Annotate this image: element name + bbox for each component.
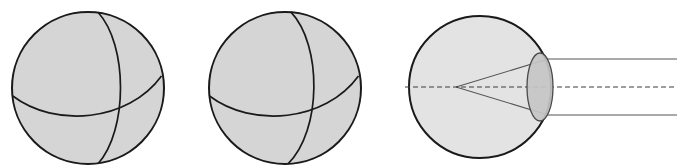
figure-canvas xyxy=(0,0,677,168)
sphere-right-panel xyxy=(209,12,361,164)
sphere-left-panel xyxy=(12,12,164,164)
figure-root xyxy=(0,0,677,168)
sphere-right-outline xyxy=(209,12,361,164)
sphere-left-outline xyxy=(12,12,164,164)
lens-ellipse xyxy=(527,53,553,121)
